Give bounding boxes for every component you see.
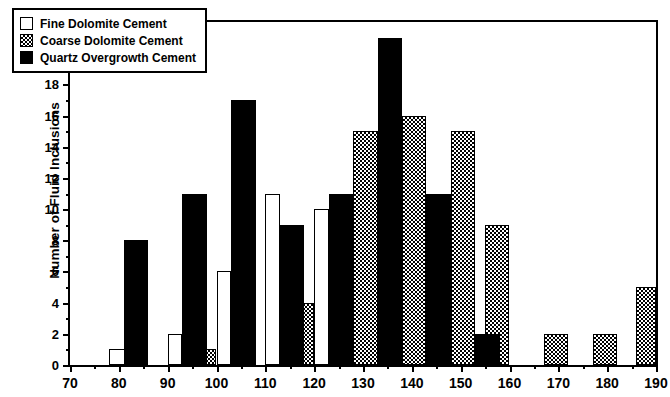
bar-coarse-128 (353, 131, 377, 365)
x-axis-tick (119, 365, 121, 372)
bar-quartz-143 (426, 194, 450, 366)
x-axis-tick-label: 180 (595, 375, 618, 391)
bar-quartz-153 (475, 334, 499, 365)
y-axis-minor-tick (66, 162, 70, 164)
x-axis-tick-label: 140 (400, 375, 423, 391)
bar-fine-110 (265, 194, 280, 366)
bar-coarse-148 (451, 131, 475, 365)
y-axis-tick-label: 8 (52, 233, 59, 248)
bar-quartz-103 (231, 100, 255, 365)
x-axis-minor-tick (339, 365, 341, 369)
x-axis-tick (265, 365, 267, 372)
bar-quartz-123 (329, 194, 353, 366)
legend-label: Fine Dolomite Cement (40, 17, 167, 31)
y-axis-minor-tick (66, 349, 70, 351)
x-axis-tick-label: 190 (644, 375, 667, 391)
legend-label: Quartz Overgrowth Cement (40, 51, 196, 65)
y-axis-tick (63, 147, 70, 149)
x-axis-tick-label: 80 (111, 375, 127, 391)
x-axis-tick-label: 100 (205, 375, 228, 391)
plot-inner (70, 22, 656, 365)
x-axis-minor-tick (143, 365, 145, 369)
x-axis-minor-tick (632, 365, 634, 369)
x-axis-minor-tick (387, 365, 389, 369)
x-axis-tick-label: 160 (498, 375, 521, 391)
x-axis-tick (314, 365, 316, 372)
x-axis-minor-tick (534, 365, 536, 369)
y-axis-tick (63, 84, 70, 86)
y-axis-minor-tick (66, 100, 70, 102)
y-axis-tick (63, 303, 70, 305)
bar-fine-90 (168, 334, 183, 365)
y-axis-tick-label: 2 (52, 326, 59, 341)
y-axis-tick-label: 6 (52, 264, 59, 279)
x-axis-tick-label: 120 (302, 375, 325, 391)
y-axis-tick-label: 14 (45, 139, 59, 154)
x-axis-tick-label: 130 (351, 375, 374, 391)
x-axis-minor-tick (192, 365, 194, 369)
legend-label: Coarse Dolomite Cement (40, 34, 183, 48)
y-axis-minor-tick (66, 194, 70, 196)
y-axis-tick (63, 116, 70, 118)
bar-coarse-177 (593, 334, 617, 365)
x-axis-tick-label: 110 (254, 375, 277, 391)
bar-quartz-113 (280, 225, 304, 365)
x-axis-tick (510, 365, 512, 372)
x-axis-minor-tick (583, 365, 585, 369)
legend-item-quartz: Quartz Overgrowth Cement (20, 49, 196, 66)
y-axis-minor-tick (66, 225, 70, 227)
y-axis-minor-tick (66, 287, 70, 289)
y-axis-minor-tick (66, 256, 70, 258)
x-axis-tick-label: 170 (547, 375, 570, 391)
x-axis-tick (412, 365, 414, 372)
x-axis-tick (558, 365, 560, 372)
bar-quartz-93 (182, 194, 206, 366)
bar-fine-100 (217, 271, 232, 365)
y-axis-tick (63, 240, 70, 242)
x-axis-tick (168, 365, 170, 372)
x-axis-minor-tick (94, 365, 96, 369)
x-axis-tick (461, 365, 463, 372)
x-axis-tick (70, 365, 72, 372)
legend-swatch-fine-icon (20, 17, 33, 30)
x-axis-minor-tick (290, 365, 292, 369)
x-axis-minor-tick (485, 365, 487, 369)
y-axis-tick-label: 0 (52, 358, 59, 373)
bar-fine-120 (314, 209, 329, 365)
x-axis-tick-label: 90 (160, 375, 176, 391)
legend-swatch-quartz-icon (20, 51, 33, 64)
x-axis-tick (363, 365, 365, 372)
legend-item-coarse: Coarse Dolomite Cement (20, 32, 196, 49)
legend-item-fine: Fine Dolomite Cement (20, 15, 196, 32)
histogram-chart: Number of Fluid Inclusions 0246810121416… (0, 0, 670, 397)
bar-quartz-133 (378, 38, 402, 365)
y-axis-tick-label: 4 (52, 295, 59, 310)
y-axis-tick-label: 18 (45, 77, 59, 92)
y-axis-tick (63, 365, 70, 367)
y-axis-tick-label: 12 (45, 170, 59, 185)
chart-legend: Fine Dolomite CementCoarse Dolomite Ceme… (12, 8, 207, 73)
bar-coarse-138 (402, 116, 426, 365)
y-axis-tick (63, 209, 70, 211)
x-axis-tick (656, 365, 658, 372)
y-axis-tick (63, 178, 70, 180)
y-axis-tick-label: 16 (45, 108, 59, 123)
bar-coarse-167 (544, 334, 568, 365)
y-axis-minor-tick (66, 131, 70, 133)
y-axis-tick (63, 334, 70, 336)
x-axis-tick-label: 70 (62, 375, 78, 391)
x-axis-tick (607, 365, 609, 372)
x-axis-tick-label: 150 (449, 375, 472, 391)
bar-coarse-186 (636, 287, 656, 365)
x-axis-tick (217, 365, 219, 372)
legend-swatch-coarse-icon (20, 34, 33, 47)
y-axis-minor-tick (66, 318, 70, 320)
y-axis-tick (63, 271, 70, 273)
x-axis-minor-tick (241, 365, 243, 369)
bar-quartz-81 (124, 240, 148, 365)
x-axis-minor-tick (436, 365, 438, 369)
y-axis-tick-label: 10 (45, 202, 59, 217)
